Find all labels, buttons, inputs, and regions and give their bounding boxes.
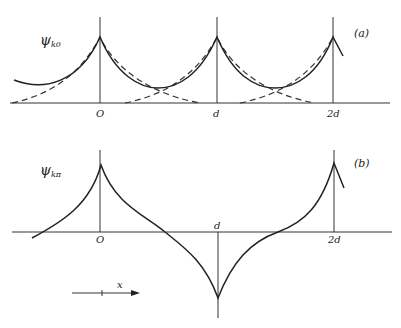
panel-label-b: (b) — [354, 157, 370, 170]
ylabel-b: ψkπ — [40, 162, 62, 179]
atomic-orbital-d — [125, 37, 315, 103]
x-direction-arrow: x — [72, 279, 140, 296]
tick-o-a: O — [96, 108, 104, 119]
tick-d-b: d — [214, 220, 220, 231]
tick-o-b: O — [96, 234, 104, 245]
wavefunction-diagram: O d 2d ψk0 (a) O d 2d ψkπ (b) x — [0, 0, 401, 328]
tick-2d-a: 2d — [326, 108, 340, 119]
panel-label-a: (a) — [354, 27, 369, 40]
panel-b: O d 2d ψkπ (b) — [12, 150, 392, 318]
panel-a: O d 2d ψk0 (a) — [10, 17, 390, 119]
psi-k0-curve — [14, 37, 343, 88]
arrow-head-icon — [131, 290, 140, 296]
psi-kpi-curve — [32, 163, 344, 298]
atomic-orbital-2d — [240, 37, 333, 103]
x-arrow-label: x — [117, 279, 123, 290]
tick-d-a: d — [213, 108, 219, 119]
ylabel-a: ψk0 — [40, 32, 61, 49]
tick-2d-b: 2d — [327, 234, 341, 245]
